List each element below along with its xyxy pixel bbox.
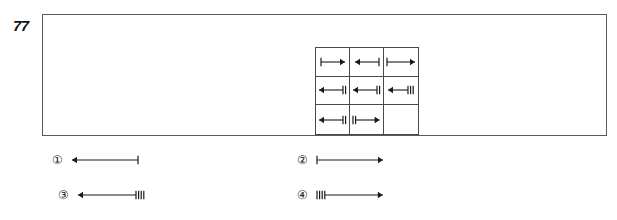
answer-option-1-arrow-icon xyxy=(70,152,140,168)
matrix-cell-r3c2 xyxy=(350,105,384,134)
answer-option-3-arrow-icon xyxy=(76,187,146,203)
answer-option-3[interactable]: ③ xyxy=(58,187,146,203)
matrix-cell-r2c1 xyxy=(316,77,350,106)
answer-option-4-label: ④ xyxy=(297,189,308,201)
arrow-left-2-ticks-right-icon xyxy=(317,112,348,128)
matrix-cell-r3c1 xyxy=(316,105,350,134)
answer-option-3-label: ③ xyxy=(58,189,69,201)
matrix-cell-r1c1 xyxy=(316,48,350,77)
answer-option-2-arrow-icon xyxy=(315,152,385,168)
arrow-right-2-ticks-left-icon xyxy=(351,112,382,128)
answer-option-1[interactable]: ① xyxy=(52,152,140,168)
problem-frame xyxy=(42,14,607,136)
answer-option-4[interactable]: ④ xyxy=(297,187,385,203)
matrix-cell-r2c3 xyxy=(384,77,418,106)
matrix-cell-r3c3-empty xyxy=(384,105,418,134)
arrow-left-1-tick-right-icon xyxy=(353,54,381,70)
answer-option-1-label: ① xyxy=(52,154,63,166)
matrix-cell-r1c2 xyxy=(350,48,384,77)
arrow-left-3-ticks-right-icon xyxy=(386,82,415,98)
arrow-left-2-ticks-right-icon xyxy=(351,82,382,98)
answer-option-2[interactable]: ② xyxy=(297,152,385,168)
matrix-cell-r1c3 xyxy=(384,48,418,77)
answer-option-4-arrow-icon xyxy=(315,187,385,203)
arrow-left-2-ticks-right-icon xyxy=(317,82,348,98)
arrow-right-1-tick-left-icon xyxy=(319,54,347,70)
matrix-grid xyxy=(315,47,419,135)
matrix-cell-r2c2 xyxy=(350,77,384,106)
question-number: 77 xyxy=(13,17,29,34)
arrow-right-1-tick-left-long-icon xyxy=(385,54,417,70)
answer-option-2-label: ② xyxy=(297,154,308,166)
